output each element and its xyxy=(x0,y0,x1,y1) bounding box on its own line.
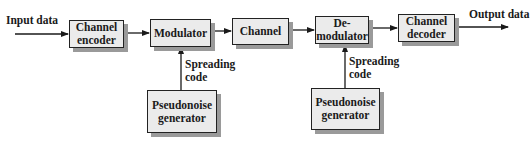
pn-tx-line1: Pseudonoise xyxy=(152,99,212,112)
output-data-label: Output data xyxy=(469,8,529,21)
pn-rx-line2: generator xyxy=(315,109,375,122)
channel-encoder-block: Channel encoder xyxy=(69,20,124,48)
channel-decoder-block: Channel decoder xyxy=(398,14,455,42)
channel-decoder-line2: decoder xyxy=(406,28,448,41)
channel-decoder-line1: Channel xyxy=(406,15,448,28)
pseudonoise-generator-rx-block: Pseudonoise generator xyxy=(311,88,380,130)
spreading-code-tx-label: Spreading code xyxy=(185,58,235,84)
spreading-code-rx-line2: code xyxy=(349,68,399,81)
channel-encoder-line1: Channel xyxy=(76,21,118,34)
input-data-label: Input data xyxy=(6,14,58,27)
modulator-block: Modulator xyxy=(150,19,211,47)
channel-label: Channel xyxy=(240,25,282,38)
spread-spectrum-diagram: Input data Output data Channel encoder M… xyxy=(0,0,531,145)
pn-tx-line2: generator xyxy=(152,112,212,125)
spreading-code-rx-label: Spreading code xyxy=(349,55,399,81)
pn-rx-line1: Pseudonoise xyxy=(315,96,375,109)
channel-encoder-line2: encoder xyxy=(76,34,118,47)
demodulator-line1: De- xyxy=(316,17,368,30)
spreading-code-rx-line1: Spreading xyxy=(349,55,399,68)
modulator-label: Modulator xyxy=(154,27,207,40)
pseudonoise-generator-tx-block: Pseudonoise generator xyxy=(147,90,217,133)
demodulator-line2: modulator xyxy=(316,30,368,43)
spreading-code-tx-line1: Spreading xyxy=(185,58,235,71)
demodulator-block: De- modulator xyxy=(315,16,369,44)
spreading-code-tx-line2: code xyxy=(185,71,235,84)
channel-block: Channel xyxy=(232,18,289,45)
